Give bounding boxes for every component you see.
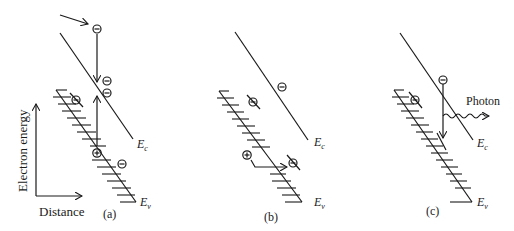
recombination-level-bar bbox=[437, 133, 446, 150]
y-axis-label: Electron energy bbox=[15, 109, 30, 192]
photon-label: Photon bbox=[466, 94, 500, 108]
band-diagram-figure: Electron energy Distance Ec Ev bbox=[0, 0, 514, 231]
tunneling-arrow bbox=[251, 160, 287, 167]
ec-label: Ec bbox=[136, 137, 148, 153]
ev-label: Ev bbox=[139, 195, 151, 211]
panel-caption: (c) bbox=[426, 204, 439, 218]
electron-symbol bbox=[118, 160, 126, 168]
electron-symbol bbox=[103, 89, 111, 97]
electron-symbol bbox=[278, 83, 286, 91]
conduction-band-edge bbox=[235, 32, 308, 140]
ev-label: Ev bbox=[313, 195, 325, 211]
electron-symbol bbox=[439, 76, 447, 84]
electron-symbol-slashed bbox=[70, 93, 83, 107]
electron-symbol bbox=[103, 77, 111, 85]
hole-symbol bbox=[243, 151, 251, 159]
hole-symbol bbox=[93, 149, 101, 157]
ec-label: Ec bbox=[313, 135, 325, 151]
panel-caption: (a) bbox=[103, 207, 116, 221]
electron-symbol-slashed bbox=[409, 92, 422, 108]
panel-b: Ec Ev bbox=[217, 32, 325, 224]
energy-distance-axes: Electron energy Distance bbox=[15, 104, 85, 219]
panel-caption: (b) bbox=[264, 210, 278, 224]
incoming-electron-arrow bbox=[60, 15, 88, 24]
electron-symbol-slashed bbox=[247, 95, 260, 109]
x-axis-label: Distance bbox=[39, 204, 85, 219]
electron-symbol bbox=[93, 25, 101, 33]
electron-symbol-slashed bbox=[287, 155, 300, 170]
ev-label: Ev bbox=[476, 195, 488, 211]
ec-label: Ec bbox=[476, 136, 488, 152]
panel-a: Ec Ev bbox=[53, 15, 151, 221]
photon-wave-arrow bbox=[443, 114, 489, 118]
conduction-band-edge bbox=[400, 33, 473, 140]
panel-c: Ec Ev Ph bbox=[392, 33, 500, 218]
